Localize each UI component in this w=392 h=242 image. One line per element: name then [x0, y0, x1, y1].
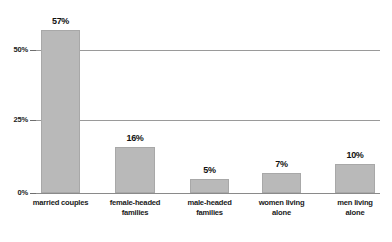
tick-mark-0 [30, 193, 36, 194]
tick-mark-50 [30, 50, 36, 51]
bar-men-living-alone[interactable] [335, 164, 375, 193]
bar-women-living-alone[interactable] [262, 173, 301, 193]
bar-value-male-headed-families: 5% [185, 166, 234, 175]
y-tick-label-0: 0% [0, 189, 28, 197]
tick-mark-25 [30, 120, 36, 121]
plot-area: 50% 25% 0% 57% married couples 16% femal… [0, 0, 392, 242]
category-label-female-headed-families: female-headed families [96, 198, 174, 219]
category-label-line: married couples [21, 198, 100, 208]
bar-value-married-couples: 57% [36, 17, 85, 26]
y-tick-label-50: 50% [0, 46, 28, 54]
bar-female-headed-families[interactable] [115, 147, 155, 193]
bar-value-female-headed-families: 16% [111, 134, 159, 143]
category-label-line: male-headed [171, 198, 248, 208]
bar-value-women-living-alone: 7% [257, 160, 306, 169]
bar-married-couples[interactable] [41, 30, 80, 193]
category-label-line: families [171, 208, 248, 218]
category-label-line: alone [316, 208, 392, 218]
gridline-50 [36, 50, 380, 51]
category-label-men-living-alone: men living alone [316, 198, 392, 219]
bar-value-men-living-alone: 10% [330, 151, 380, 160]
category-label-male-headed-families: male-headed families [171, 198, 248, 219]
category-label-line: female-headed [96, 198, 174, 208]
gridline-25 [36, 120, 380, 121]
bar-male-headed-families[interactable] [190, 179, 229, 193]
category-label-line: alone [243, 208, 320, 218]
category-label-married-couples: married couples [21, 198, 100, 208]
category-label-line: men living [316, 198, 392, 208]
bar-chart-figure: 50% 25% 0% 57% married couples 16% femal… [0, 0, 392, 242]
category-label-line: women living [243, 198, 320, 208]
y-tick-label-25: 25% [0, 116, 28, 124]
category-label-women-living-alone: women living alone [243, 198, 320, 219]
category-label-line: families [96, 208, 174, 218]
gridline-baseline-0 [36, 193, 380, 194]
